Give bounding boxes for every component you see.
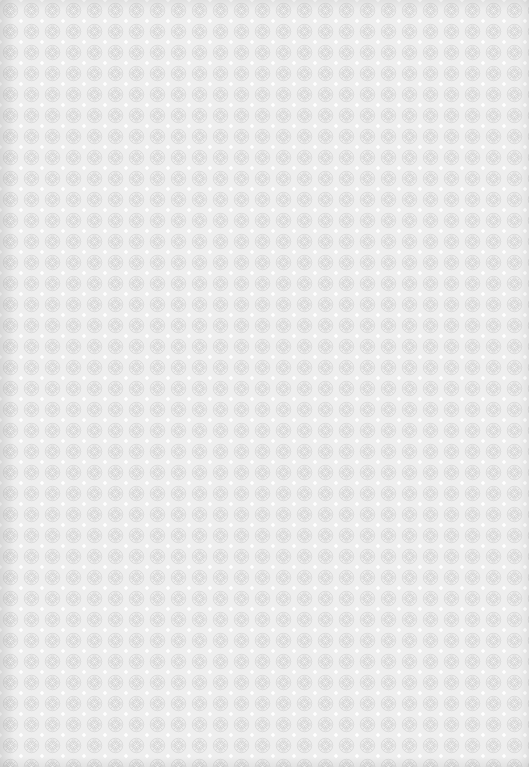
patterned-texture-background: [0, 0, 529, 767]
rosette-pattern: [0, 0, 529, 767]
